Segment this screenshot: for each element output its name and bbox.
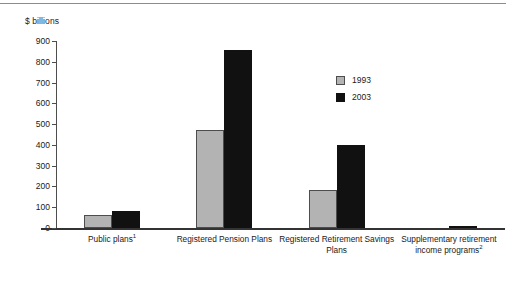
y-tick-label-700: 700 bbox=[20, 79, 50, 88]
bar-2003-2 bbox=[337, 145, 365, 228]
bar-1993-1 bbox=[196, 130, 224, 228]
y-tick-200 bbox=[52, 186, 56, 187]
bar-2003-3 bbox=[449, 226, 477, 228]
y-tick-label-600: 600 bbox=[20, 99, 50, 108]
footnote-marker: 2 bbox=[479, 244, 482, 250]
legend-label-1993: 1993 bbox=[352, 76, 371, 85]
x-axis-line bbox=[41, 228, 505, 230]
x-category-label-3: Supplementary retirement income programs… bbox=[388, 234, 506, 256]
y-tick-label-100: 100 bbox=[20, 203, 50, 212]
bar-1993-0 bbox=[84, 215, 112, 228]
plot-area bbox=[56, 41, 505, 228]
y-axis-tick-labels: 0100200300400500600700800900 bbox=[18, 41, 50, 228]
y-tick-label-200: 200 bbox=[20, 182, 50, 191]
x-category-label-1: Registered Pension Plans bbox=[163, 234, 285, 245]
y-tick-400 bbox=[52, 145, 56, 146]
y-tick-label-500: 500 bbox=[20, 120, 50, 129]
x-axis-category-labels: Public plans1Registered Pension PlansReg… bbox=[56, 234, 505, 284]
bar-2003-0 bbox=[112, 211, 140, 228]
legend-swatch-2003-icon bbox=[336, 93, 345, 102]
legend-item-2003: 2003 bbox=[336, 90, 371, 104]
y-tick-100 bbox=[52, 207, 56, 208]
y-tick-700 bbox=[52, 83, 56, 84]
y-tick-label-400: 400 bbox=[20, 141, 50, 150]
y-axis-line bbox=[56, 41, 57, 228]
y-tick-300 bbox=[52, 166, 56, 167]
bar-2003-1 bbox=[224, 50, 252, 228]
y-tick-800 bbox=[52, 62, 56, 63]
y-tick-500 bbox=[52, 124, 56, 125]
footnote-marker: 1 bbox=[133, 233, 136, 239]
y-tick-600 bbox=[52, 103, 56, 104]
chart-figure: $ billions 0100200300400500600700800900 … bbox=[0, 0, 506, 292]
y-axis-title: $ billions bbox=[25, 16, 59, 26]
x-category-label-2: Registered Retirement Savings Plans bbox=[276, 234, 398, 256]
legend-label-2003: 2003 bbox=[352, 93, 371, 102]
top-divider-rule bbox=[0, 3, 506, 4]
y-tick-label-800: 800 bbox=[20, 58, 50, 67]
legend-swatch-1993-icon bbox=[336, 76, 345, 85]
y-tick-0 bbox=[52, 228, 56, 229]
bar-1993-2 bbox=[309, 190, 337, 228]
y-tick-label-300: 300 bbox=[20, 162, 50, 171]
legend: 1993 2003 bbox=[336, 73, 371, 107]
x-category-label-0: Public plans1 bbox=[51, 234, 173, 245]
y-tick-900 bbox=[52, 41, 56, 42]
legend-item-1993: 1993 bbox=[336, 73, 371, 87]
y-tick-label-900: 900 bbox=[20, 37, 50, 46]
